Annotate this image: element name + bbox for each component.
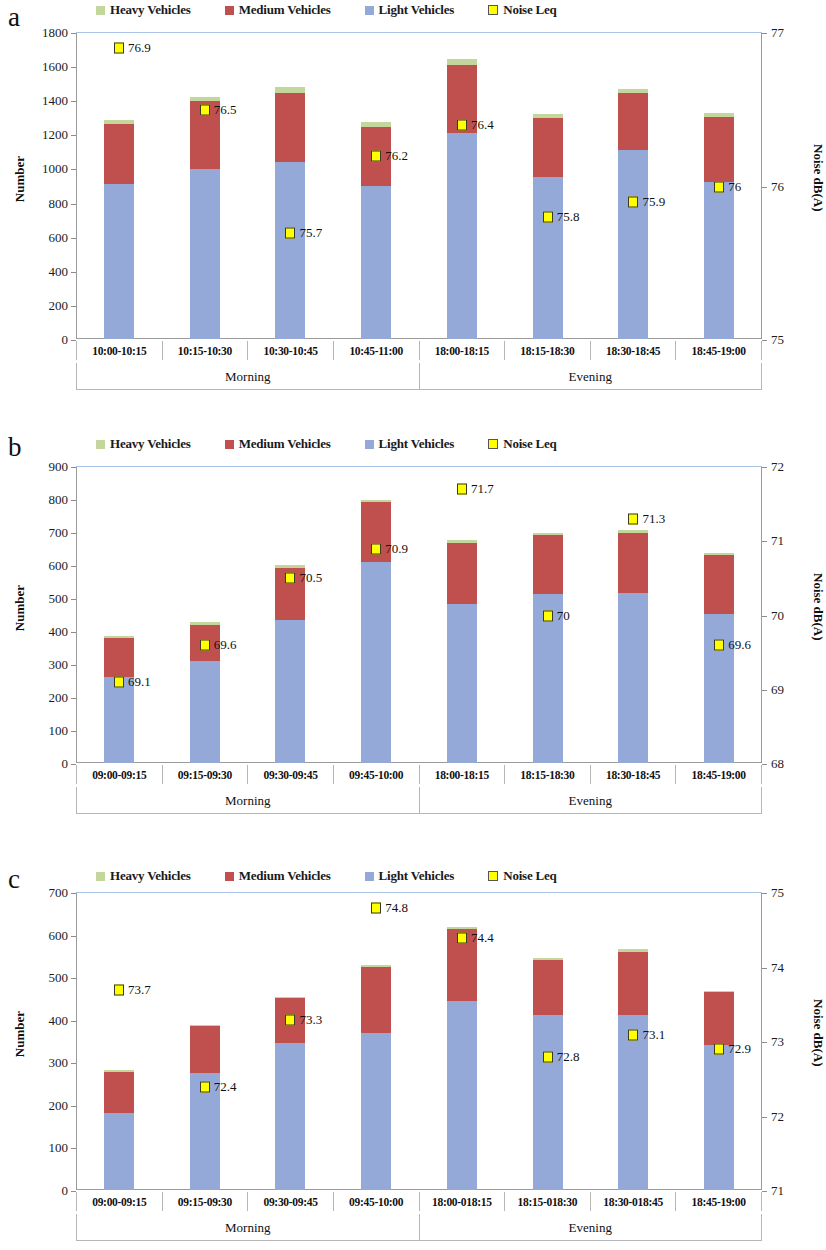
y2-tick-c	[762, 1042, 767, 1043]
legend-label: Light Vehicles	[379, 2, 455, 18]
noise-leq-marker[interactable]	[628, 1029, 638, 1040]
y2-tick-c	[762, 1191, 767, 1192]
group-label: Morning	[77, 363, 420, 389]
noise-leq-marker[interactable]	[285, 573, 295, 584]
panel-letter-c: c	[8, 866, 20, 893]
noise-leq-marker[interactable]	[628, 196, 638, 207]
bar-segment-light-vehicles	[447, 1001, 477, 1190]
category-label: 09:30-09:45	[248, 765, 334, 784]
bar-segment-heavy-vehicles	[704, 113, 734, 117]
stacked-bar[interactable]	[104, 636, 134, 763]
category-label: 09:00-09:15	[77, 1192, 163, 1211]
noise-leq-marker[interactable]	[714, 640, 724, 651]
bar-segment-light-vehicles	[104, 184, 134, 339]
stacked-bar[interactable]	[704, 991, 734, 1190]
noise-leq-marker[interactable]	[114, 43, 124, 54]
y2-tick-b	[762, 467, 767, 468]
y2-tick-label: 72	[771, 459, 784, 475]
stacked-bar[interactable]	[704, 113, 734, 339]
stacked-bar[interactable]	[618, 89, 648, 339]
noise-leq-value-label: 70	[557, 608, 570, 624]
bar-slot	[591, 33, 677, 339]
y-tick-label: 600	[49, 928, 69, 944]
noise-leq-marker[interactable]	[457, 120, 467, 131]
y2-tick-label: 75	[771, 332, 784, 348]
stacked-bar[interactable]	[190, 1025, 220, 1190]
bar-segment-heavy-vehicles	[275, 565, 305, 567]
noise-leq-marker[interactable]	[543, 212, 553, 223]
bar-segment-heavy-vehicles	[104, 120, 134, 124]
noise-leq-marker[interactable]	[114, 677, 124, 688]
stacked-bar[interactable]	[447, 59, 477, 339]
noise-leq-marker[interactable]	[200, 640, 210, 651]
noise-leq-marker[interactable]	[371, 902, 381, 913]
category-axis-c: 09:00-09:1509:15-09:3009:30-09:4509:45-1…	[76, 1192, 762, 1211]
y-tick-label: 400	[49, 1013, 69, 1029]
bar-segment-heavy-vehicles	[361, 965, 391, 966]
stacked-bar[interactable]	[275, 565, 305, 763]
stacked-bar[interactable]	[533, 533, 563, 763]
stacked-bar[interactable]	[447, 927, 477, 1190]
bar-slot	[505, 893, 591, 1190]
stacked-bar[interactable]	[447, 540, 477, 763]
noise-leq-marker[interactable]	[457, 484, 467, 495]
noise-leq-marker[interactable]	[285, 1014, 295, 1025]
noise-leq-marker[interactable]	[200, 104, 210, 115]
bar-segment-medium-vehicles	[704, 992, 734, 1045]
bar-segment-heavy-vehicles	[190, 622, 220, 625]
stacked-bar[interactable]	[533, 958, 563, 1190]
bar-segment-light-vehicles	[361, 186, 391, 340]
y-tick-label: 200	[49, 1098, 69, 1114]
bars-container-c: 73.772.473.374.874.472.873.172.9	[76, 893, 762, 1190]
noise-leq-marker[interactable]	[543, 1051, 553, 1062]
noise-leq-marker[interactable]	[200, 1081, 210, 1092]
stacked-bar[interactable]	[104, 120, 134, 339]
y2-tick-a	[762, 340, 767, 341]
legend-label: Heavy Vehicles	[110, 868, 191, 884]
y2-axis-title: Noise dB(A)	[810, 573, 826, 641]
noise-leq-marker[interactable]	[714, 1044, 724, 1055]
stacked-bar[interactable]	[533, 114, 563, 339]
legend-item-light: Light Vehicles	[365, 436, 455, 452]
noise-leq-marker[interactable]	[285, 227, 295, 238]
noise-leq-value-label: 69.1	[128, 674, 151, 690]
y-tick-label: 700	[49, 525, 69, 541]
legend-swatch-heavy-icon	[96, 6, 105, 15]
category-label: 18:30-18:45	[591, 341, 677, 360]
bar-slot	[505, 33, 591, 339]
noise-leq-marker[interactable]	[371, 150, 381, 161]
stacked-bar[interactable]	[618, 530, 648, 763]
bar-segment-medium-vehicles	[104, 124, 134, 184]
legend-label: Medium Vehicles	[239, 436, 331, 452]
stacked-bar[interactable]	[704, 553, 734, 763]
bar-segment-heavy-vehicles	[104, 636, 134, 638]
noise-leq-marker[interactable]	[371, 543, 381, 554]
noise-leq-marker[interactable]	[114, 984, 124, 995]
bar-segment-medium-vehicles	[361, 967, 391, 1033]
stacked-bar[interactable]	[618, 949, 648, 1190]
legend-label: Light Vehicles	[379, 436, 455, 452]
stacked-bar[interactable]	[275, 87, 305, 339]
chart-panel-c: c Heavy VehiclesMedium VehiclesLight Veh…	[0, 832, 822, 1250]
bar-segment-heavy-vehicles	[104, 1070, 134, 1072]
noise-leq-marker[interactable]	[457, 932, 467, 943]
legend-label: Light Vehicles	[379, 868, 455, 884]
noise-leq-value-label: 69.6	[214, 637, 237, 653]
y2-tick-c	[762, 1117, 767, 1118]
noise-leq-value-label: 76	[728, 179, 741, 195]
noise-leq-marker[interactable]	[628, 513, 638, 524]
bar-segment-light-vehicles	[618, 150, 648, 339]
noise-leq-value-label: 74.4	[471, 930, 494, 946]
panel-letter-a: a	[8, 4, 20, 31]
stacked-bar[interactable]	[190, 97, 220, 339]
noise-leq-marker[interactable]	[543, 610, 553, 621]
stacked-bar[interactable]	[104, 1070, 134, 1190]
stacked-bar[interactable]	[361, 965, 391, 1190]
legend-c: Heavy VehiclesMedium VehiclesLight Vehic…	[96, 868, 796, 884]
noise-leq-value-label: 71.7	[471, 481, 494, 497]
noise-leq-marker[interactable]	[714, 181, 724, 192]
group-label: Morning	[77, 1214, 420, 1240]
group-axis-a: MorningEvening	[76, 363, 762, 390]
bar-segment-medium-vehicles	[104, 1072, 134, 1113]
y2-tick-a	[762, 33, 767, 34]
